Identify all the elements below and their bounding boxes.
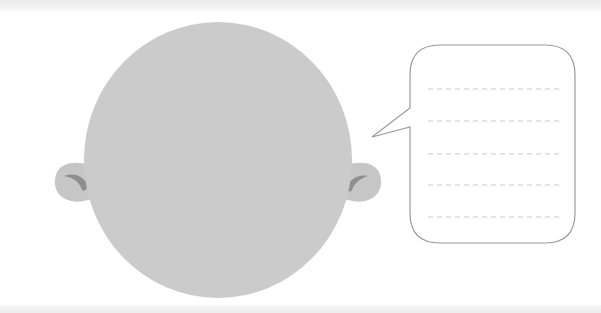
- head: [84, 22, 352, 298]
- illustration: [0, 0, 601, 313]
- speech-bubble: [372, 45, 575, 243]
